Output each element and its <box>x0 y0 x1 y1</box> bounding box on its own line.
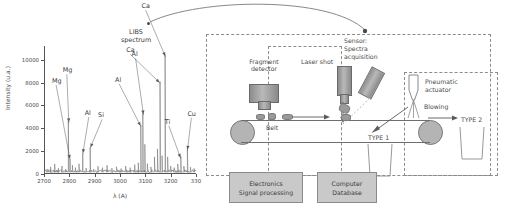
blowing-label: Blowing <box>424 103 448 110</box>
belt-label: Belt <box>266 124 278 131</box>
type2-label: TYPE 2 <box>461 116 482 123</box>
figure-root: Intensity (u.a.) λ (A) 02000400060008000… <box>0 0 507 218</box>
laser-head-icon <box>337 66 352 96</box>
computer-box-line2: Database <box>332 188 362 197</box>
computer-box-line1: Computer <box>332 179 363 188</box>
belt-fragment <box>341 114 351 121</box>
fragment-detector-label: Fragmentdetector <box>238 58 290 73</box>
laser-shot-label: Laser shot <box>301 58 333 65</box>
electronics-box-line1: Electronics <box>249 179 283 188</box>
electronics-box-line2: Signal processing <box>239 188 293 197</box>
type2-bin-icon <box>458 127 488 163</box>
type1-reject-arrow <box>368 105 412 137</box>
belt-bottom-surface <box>241 142 430 143</box>
fragment-detector-stand-icon <box>258 101 271 110</box>
sensor-label: Sensor:Spectraacquisition <box>344 37 378 61</box>
computer-box[interactable]: Computer Database <box>317 172 377 203</box>
belt-fragment <box>268 113 276 120</box>
electronics-box[interactable]: Electronics Signal processing <box>229 172 303 203</box>
pneumatic-actuator-label: Pneumaticactuator <box>425 78 458 94</box>
type2-accept-arrow <box>428 114 462 124</box>
belt-direction-arrow <box>292 113 334 123</box>
belt-fragment <box>256 114 265 120</box>
